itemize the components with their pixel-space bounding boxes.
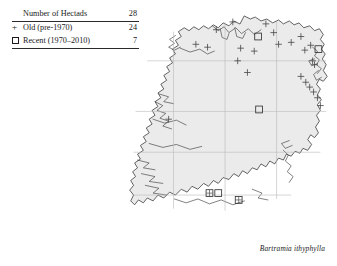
landmass-layer [130,16,327,205]
square-marker-glyph [12,37,19,44]
ireland-map [120,4,334,248]
plus-marker-icon: + [12,23,23,32]
ireland-coastline [130,16,327,205]
wexford-southeast [252,189,268,200]
square-marker-icon [12,36,23,45]
square-marker [215,190,222,197]
legend-label-old: Old (pre-1970) [23,24,117,33]
species-name-caption: Bartramia ithyphylla [260,244,325,253]
legend-label-recent: Recent (1970–2010) [23,37,117,46]
distribution-map-figure: Number of Hectads 28 + Old (pre-1970) 24… [0,0,337,266]
legend-title-label: Number of Hectads [23,10,117,19]
south-coast-detail [174,199,244,205]
